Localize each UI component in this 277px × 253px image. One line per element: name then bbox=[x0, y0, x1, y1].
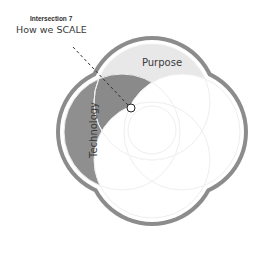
purpose-label: Purpose bbox=[142, 57, 182, 68]
intersection-marker[interactable] bbox=[127, 104, 135, 112]
callout-subtitle: How we SCALE bbox=[16, 24, 87, 35]
venn-diagram: Purpose Technology bbox=[0, 0, 277, 253]
callout-title: Intersection 7 bbox=[30, 15, 72, 22]
technology-label: Technology bbox=[88, 102, 99, 159]
